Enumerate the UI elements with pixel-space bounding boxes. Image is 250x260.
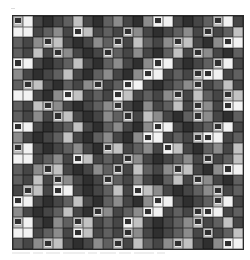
- grid-cell: [23, 122, 33, 133]
- grid-cell: [53, 238, 63, 249]
- framed-cell: [123, 27, 133, 38]
- grid-cell: [213, 69, 223, 80]
- grid-cell: [183, 154, 193, 165]
- grid-cell: [173, 185, 183, 196]
- framed-cell: [13, 217, 23, 228]
- grid-cell: [153, 101, 163, 112]
- grid-cell: [233, 185, 243, 196]
- grid-cell: [73, 58, 83, 69]
- grid-cell: [223, 16, 233, 27]
- grid-cell: [63, 122, 73, 133]
- framed-cell: [123, 228, 133, 239]
- grid-cell: [33, 185, 43, 196]
- framed-cell: [13, 122, 23, 133]
- grid-cell: [23, 196, 33, 207]
- grid-cell: [93, 238, 103, 249]
- grid-cell: [133, 80, 143, 91]
- grid-cell: [183, 132, 193, 143]
- framed-cell: [93, 80, 103, 91]
- grid-cell: [73, 37, 83, 48]
- grid-cell: [93, 16, 103, 27]
- grid-cell: [163, 164, 173, 175]
- grid-cell: [73, 143, 83, 154]
- grid-cell: [133, 196, 143, 207]
- grid-cell: [143, 228, 153, 239]
- grid-cell: [73, 101, 83, 112]
- grid-cell: [93, 175, 103, 186]
- grid-cell: [63, 80, 73, 91]
- grid-cell: [193, 196, 203, 207]
- grid-cell: [183, 238, 193, 249]
- framed-cell: [103, 143, 113, 154]
- grid-cell: [53, 217, 63, 228]
- framed-cell: [43, 37, 53, 48]
- grid-cell: [93, 143, 103, 154]
- grid-cell: [203, 101, 213, 112]
- framed-cell: [73, 27, 83, 38]
- grid-cell: [43, 58, 53, 69]
- grid-cell: [123, 207, 133, 218]
- grid-cell: [143, 164, 153, 175]
- grid-cell: [153, 207, 163, 218]
- grid-cell: [43, 228, 53, 239]
- grid-cell: [143, 238, 153, 249]
- framed-cell: [203, 154, 213, 165]
- grid-cell: [73, 132, 83, 143]
- framed-cell: [43, 101, 53, 112]
- grid-cell: [183, 37, 193, 48]
- grid-cell: [63, 132, 73, 143]
- grid-cell: [133, 90, 143, 101]
- grid-cell: [173, 27, 183, 38]
- grid-cell: [173, 154, 183, 165]
- framed-cell: [143, 132, 153, 143]
- grid-cell: [123, 175, 133, 186]
- grid-cell: [123, 48, 133, 59]
- grid-cell: [33, 101, 43, 112]
- grid-cell: [23, 69, 33, 80]
- grid-cell: [213, 164, 223, 175]
- grid-cell: [113, 27, 123, 38]
- framed-cell: [193, 132, 203, 143]
- grid-cell: [203, 196, 213, 207]
- framed-cell: [193, 69, 203, 80]
- grid-cell: [233, 217, 243, 228]
- grid-cell: [13, 80, 23, 91]
- framed-cell: [203, 207, 213, 218]
- grid-cell: [123, 69, 133, 80]
- grid-cell: [183, 122, 193, 133]
- grid-cell: [13, 154, 23, 165]
- grid-cell: [173, 58, 183, 69]
- grid-cell: [173, 101, 183, 112]
- grid-cell: [143, 111, 153, 122]
- grid-cell: [103, 164, 113, 175]
- grid-cell: [203, 16, 213, 27]
- grid-cell: [93, 185, 103, 196]
- grid-cell: [233, 143, 243, 154]
- grid-cell: [223, 196, 233, 207]
- grid-cell: [173, 111, 183, 122]
- grid-cell: [13, 185, 23, 196]
- grid-cell: [123, 90, 133, 101]
- grid-cell: [93, 228, 103, 239]
- grid-cell: [213, 80, 223, 91]
- grid-cell: [23, 143, 33, 154]
- grid-cell: [223, 27, 233, 38]
- grid-cell: [153, 132, 163, 143]
- grid-cell: [143, 16, 153, 27]
- grid-cell: [233, 37, 243, 48]
- framed-cell: [223, 238, 233, 249]
- grid-cell: [183, 228, 193, 239]
- grid-cell: [13, 228, 23, 239]
- grid-cell: [123, 122, 133, 133]
- grid-cell: [103, 238, 113, 249]
- grid-cell: [33, 196, 43, 207]
- grid-cell: [153, 143, 163, 154]
- grid-cell: [213, 48, 223, 59]
- grid-cell: [133, 101, 143, 112]
- grid-cell: [183, 69, 193, 80]
- grid-cell: [43, 217, 53, 228]
- grid-cell: [163, 154, 173, 165]
- grid-cell: [233, 48, 243, 59]
- grid-cell: [113, 132, 123, 143]
- grid-cell: [143, 48, 153, 59]
